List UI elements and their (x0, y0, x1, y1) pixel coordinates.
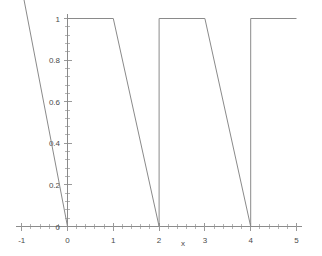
y-tick-label-4: 0.8 (49, 56, 61, 65)
data-series-group (6, 0, 297, 226)
series-line-periodic-wave (6, 0, 297, 226)
plot-figure: -1012345 00.20.40.60.81 x (0, 0, 322, 256)
y-tick-label-5: 1 (56, 15, 61, 24)
x-tick-label-4: 3 (203, 236, 208, 245)
plot-canvas: -1012345 00.20.40.60.81 x (0, 0, 322, 256)
x-tick-label-1: 0 (65, 236, 70, 245)
x-tick-label-3: 2 (157, 236, 162, 245)
x-tick-label-0: -1 (18, 236, 26, 245)
y-tick-label-3: 0.6 (49, 98, 61, 107)
y-tick-label-group: 00.20.40.60.81 (49, 15, 61, 232)
x-tick-label-2: 1 (111, 236, 116, 245)
x-axis-label: x (181, 239, 185, 248)
x-tick-label-5: 4 (248, 236, 253, 245)
x-tick-label-group: -1012345 (18, 236, 299, 245)
y-tick-label-0: 0 (56, 223, 61, 232)
x-tick-label-6: 5 (294, 236, 299, 245)
